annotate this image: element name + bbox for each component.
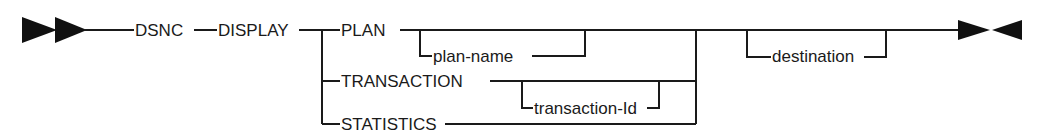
end-arrow-left-icon [992,20,1022,40]
plan-name-loop [420,30,432,56]
transaction-id-loop [522,81,533,108]
start-arrow-icon-2 [55,17,87,43]
end-arrow-right-icon [958,20,990,40]
keyword-transaction: TRANSACTION [341,72,463,91]
syntax-diagram: DSNC DISPLAY PLAN plan-name TRANSACTION … [0,0,1041,136]
param-transaction-id: transaction-Id [534,99,637,118]
transaction-id-loop-end [647,81,659,108]
keyword-dsnc: DSNC [135,21,183,40]
plan-name-loop-end [532,30,585,56]
keyword-display: DISPLAY [218,21,289,40]
param-destination: destination [772,47,854,66]
start-arrow-icon-1 [22,17,57,43]
keyword-statistics: STATISTICS [341,115,437,134]
keyword-plan: PLAN [341,21,385,40]
destination-loop [747,30,771,57]
destination-loop-end [864,30,886,57]
param-plan-name: plan-name [433,47,513,66]
